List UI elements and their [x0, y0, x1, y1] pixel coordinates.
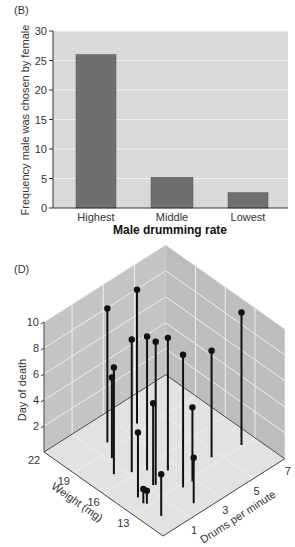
data-point [144, 488, 150, 494]
data-point [189, 404, 195, 410]
data-point [144, 333, 150, 339]
data-point [150, 400, 156, 406]
data-point [180, 352, 186, 358]
data-point [152, 339, 158, 345]
y-tick-label: 7 [285, 465, 291, 477]
data-point [135, 429, 141, 435]
x-tick-label: 13 [117, 517, 129, 529]
z-tick-label: 6 [33, 368, 39, 380]
data-point [129, 336, 135, 342]
data-point [111, 364, 117, 370]
z-tick-label: 10 [27, 316, 39, 328]
chart-walls [44, 245, 285, 536]
z-tick-label: 8 [33, 342, 39, 354]
data-point [208, 348, 214, 354]
y-tick-label: 5 [253, 485, 259, 497]
z-tick-label: 2 [33, 420, 39, 432]
stem-chart-3d: 246810221916131357 Day of death Weight (… [0, 0, 295, 547]
data-point [104, 305, 110, 311]
data-point [238, 309, 244, 315]
z-axis-title: Day of death [16, 359, 28, 421]
data-point [134, 286, 140, 292]
data-point [165, 335, 171, 341]
y-tick-label: 1 [191, 524, 197, 536]
data-point [190, 455, 196, 461]
z-tick-label: 4 [33, 394, 39, 406]
data-point [158, 471, 164, 477]
x-tick-label: 22 [28, 454, 40, 466]
y-tick-label: 3 [222, 504, 228, 516]
